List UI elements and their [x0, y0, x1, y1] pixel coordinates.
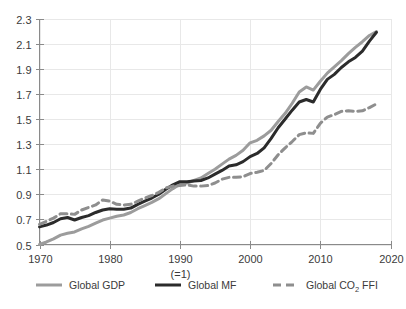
y-tick-label: 1.3	[16, 139, 31, 151]
y-axis-tick-labels: 0.50.70.91.11.31.51.71.92.12.3	[16, 14, 31, 252]
y-tick-label: 1.1	[16, 164, 31, 176]
y-tick-label: 0.9	[16, 189, 31, 201]
baseline-note-label: (=1)	[171, 268, 191, 280]
x-tick-label: 1970	[28, 253, 52, 265]
data-series	[40, 32, 377, 245]
legend-label-2: Global MF	[188, 279, 236, 291]
x-tick-label: 2010	[308, 253, 332, 265]
y-tick-label: 1.7	[16, 89, 31, 101]
x-tick-label: 1980	[98, 253, 122, 265]
legend-label-3: Global CO2 FFI	[306, 279, 378, 294]
legend-label-1: Global GDP	[69, 279, 125, 291]
grid-lines	[40, 19, 392, 246]
y-tick-label: 0.5	[16, 240, 31, 252]
chart-container: 0.50.70.91.11.31.51.71.92.12.3 197019801…	[0, 0, 406, 309]
y-tick-label: 2.1	[16, 39, 31, 51]
x-axis-tick-labels: 197019801990200020102020	[28, 253, 403, 265]
x-tick-label: 1990	[168, 253, 192, 265]
axes	[40, 19, 391, 245]
line-chart: 0.50.70.91.11.31.51.71.92.12.3 197019801…	[0, 0, 406, 309]
chart-legend: Global GDPGlobal MFGlobal CO2 FFI	[36, 279, 378, 294]
y-tick-label: 1.5	[16, 114, 31, 126]
baseline-note: (=1)	[171, 268, 191, 280]
x-tick-label: 2020	[379, 253, 403, 265]
y-tick-label: 0.7	[16, 214, 31, 226]
x-tick-label: 2000	[238, 253, 262, 265]
series-line-global-mf	[40, 32, 377, 227]
y-tick-label: 1.9	[16, 64, 31, 76]
series-line-global-gdp	[40, 32, 377, 245]
y-tick-label: 2.3	[16, 14, 31, 26]
series-line-global-co-ffi	[40, 104, 377, 225]
